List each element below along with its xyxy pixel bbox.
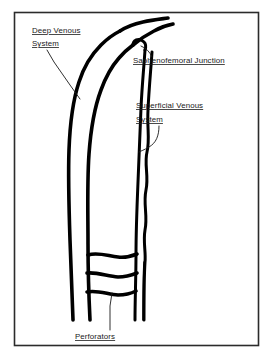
label-superficial-venous-system-line1: Superficial Venous <box>136 101 203 110</box>
label-superficial-venous-system-line2: System <box>136 115 163 124</box>
label-saphenofemoral-junction: Saphenofemoral Junction <box>133 56 225 65</box>
label-perforators: Perforators <box>75 332 115 341</box>
label-deep-venous-system-line1: Deep Venous <box>32 26 80 35</box>
label-deep-venous-system-line2: System <box>32 39 59 48</box>
venous-anatomy-diagram: Deep Venous System Saphenofemoral Juncti… <box>0 0 274 360</box>
